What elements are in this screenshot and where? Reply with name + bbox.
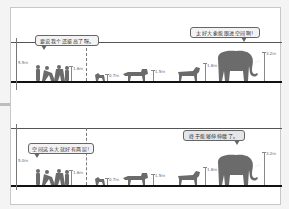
side-tab-marker (0, 103, 10, 106)
lion-height-label: 1.5m (155, 69, 165, 74)
speech-bubble-text: 要说我个还挺高了呀。 (40, 38, 95, 44)
height-tick (264, 152, 265, 185)
ceiling-line (11, 128, 282, 129)
divider-dashed (86, 128, 87, 185)
elephant-height-label: 3.2m (266, 151, 276, 156)
height-tick (205, 167, 206, 185)
bubble-tail (234, 140, 240, 145)
height-tick (205, 63, 206, 81)
speech-bubble-right: 太好大象能跟进空间啊! (190, 27, 260, 38)
bubble-tail (241, 37, 247, 42)
height-tick (71, 170, 72, 185)
speech-bubble-text: 太好大象能跟进空间啊! (196, 30, 254, 36)
elephant-silhouette-icon (216, 48, 262, 82)
divider-dashed (86, 48, 87, 81)
ceiling-height-label: 5.0m (18, 158, 28, 163)
bubble-tail (41, 45, 47, 50)
height-tick (153, 70, 154, 81)
ceiling-height-rule (16, 124, 17, 190)
people-height-label: 1.6m (73, 66, 83, 71)
speech-bubble-text: 终于能够伸伸腰了。 (189, 133, 239, 139)
lion-height-label: 1.5m (155, 173, 165, 178)
elephant-height-label: 3.2m (266, 51, 276, 56)
dog-height-label: 0.7m (109, 177, 119, 182)
elephant-silhouette-icon (216, 152, 262, 186)
height-tick (153, 174, 154, 185)
people-silhouette-icon (33, 64, 73, 82)
zebra-silhouette-icon (177, 170, 201, 186)
lion-silhouette-icon (123, 68, 149, 82)
illustration-frame: 5.5m 要说我个还挺高了呀。 太好大象能跟进空间啊! 1.6m (10, 7, 281, 205)
people-height-label: 1.6m (73, 170, 83, 175)
people-silhouette-icon (33, 168, 73, 186)
ceiling-height-rule (16, 38, 17, 90)
panel-bottom: 5.0m 空间这么大就好有两层! 终于能够伸伸腰了。 1.6m (11, 108, 282, 204)
lion-silhouette-icon (123, 172, 149, 186)
panel-top: 5.5m 要说我个还挺高了呀。 太好大象能跟进空间啊! 1.6m (11, 8, 282, 104)
speech-bubble-text: 空间这么大就好有两层! (32, 146, 90, 152)
height-tick (71, 66, 72, 81)
zebra-silhouette-icon (177, 66, 201, 82)
ceiling-height-label: 5.5m (18, 60, 28, 65)
height-tick (107, 74, 108, 81)
height-tick (107, 178, 108, 185)
bubble-tail (34, 153, 40, 158)
dog-height-label: 0.7m (109, 73, 119, 78)
height-tick (264, 52, 265, 81)
